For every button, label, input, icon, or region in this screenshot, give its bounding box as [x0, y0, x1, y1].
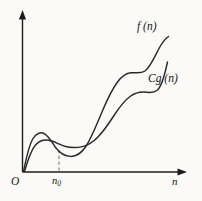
curve-label-f-text: f (n): [137, 20, 156, 32]
threshold-tick-label: n0: [52, 176, 61, 187]
x-axis-arrow-icon: [178, 169, 188, 176]
y-axis-arrow-icon: [19, 10, 26, 20]
origin-label-text: O: [11, 175, 19, 187]
figure-canvas: [0, 0, 202, 201]
threshold-tick-subscript: 0: [57, 179, 61, 188]
curve-label-f: f (n): [137, 21, 156, 33]
curve-label-cg-text: Cg (n): [148, 72, 178, 84]
curve-label-cg: Cg (n): [148, 73, 178, 85]
curve-cg: [25, 62, 168, 172]
curve-f: [24, 37, 169, 172]
x-axis-label: n: [172, 176, 178, 187]
origin-label: O: [11, 176, 19, 188]
asymptotic-bound-figure: f (n) Cg (n) O n0 n: [0, 0, 202, 201]
x-axis-label-text: n: [172, 175, 178, 187]
